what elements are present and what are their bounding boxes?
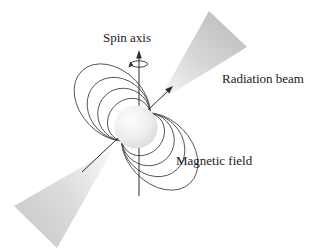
spin-axis-arrow-icon xyxy=(136,50,142,59)
spin-axis-label: Spin axis xyxy=(103,30,151,45)
pulsar-diagram-canvas: Spin axis Radiation beam Magnetic field xyxy=(0,0,317,252)
neutron-star-sphere xyxy=(115,106,158,149)
radiation-beam-cone-lower xyxy=(14,149,113,248)
pulsar-diagram: Spin axis Radiation beam Magnetic field xyxy=(0,0,317,252)
radiation-beam-label: Radiation beam xyxy=(222,71,304,86)
magnetic-field-label: Magnetic field xyxy=(176,153,253,168)
rotation-direction-icon xyxy=(129,61,148,68)
